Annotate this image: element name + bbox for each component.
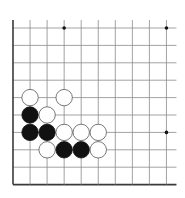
go-board [0,0,185,198]
white-stone [39,107,55,123]
star-point [62,26,66,30]
black-stone [22,107,38,123]
black-stone [56,142,72,158]
white-stone [39,142,55,158]
star-point [165,26,169,30]
white-stone [56,89,72,105]
white-stone [73,124,89,140]
black-stone [39,124,55,140]
star-point [165,131,169,135]
black-stone [73,142,89,158]
black-stone [22,124,38,140]
white-stone [56,124,72,140]
white-stone [22,89,38,105]
grid-lines [13,20,176,185]
white-stone [90,142,106,158]
white-stone [90,124,106,140]
